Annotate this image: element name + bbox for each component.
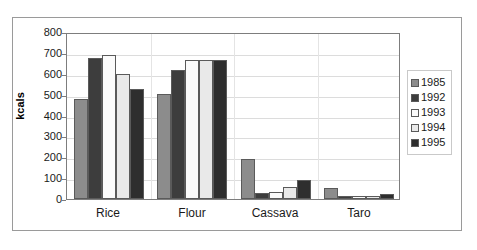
legend-swatch-icon: [411, 139, 419, 147]
bar-flour-1995: [213, 60, 227, 199]
legend-label: 1995: [421, 137, 445, 148]
legend-label: 1985: [421, 77, 445, 88]
plot-area: [66, 33, 400, 200]
legend-label: 1993: [421, 107, 445, 118]
legend-item-1993: 1993: [411, 105, 448, 120]
y-axis-tick-mark: [62, 75, 66, 76]
y-axis-tick-mark: [62, 158, 66, 159]
legend-item-1994: 1994: [411, 120, 448, 135]
x-axis-label-rice: Rice: [66, 206, 150, 220]
bar-taro-1994: [366, 196, 380, 199]
legend-item-1992: 1992: [411, 90, 448, 105]
bar-cassava-1985: [241, 159, 255, 199]
y-axis-tick-mark: [62, 117, 66, 118]
y-axis-tick-label: 800: [18, 27, 62, 38]
bar-flour-1993: [185, 60, 199, 199]
legend-swatch-icon: [411, 124, 419, 132]
legend-item-1995: 1995: [411, 135, 448, 150]
y-axis-tick-mark: [62, 54, 66, 55]
category-separator: [151, 34, 152, 199]
bar-taro-1985: [324, 188, 338, 199]
bar-cassava-1994: [283, 187, 297, 199]
gridline: [67, 55, 399, 56]
bar-rice-1995: [130, 89, 144, 199]
y-axis-tick-label: 0: [18, 194, 62, 205]
legend-swatch-icon: [411, 109, 419, 117]
y-axis-tick-mark: [62, 179, 66, 180]
y-axis-tick-mark: [62, 200, 66, 201]
bar-rice-1985: [74, 99, 88, 199]
y-axis-tick-label: 100: [18, 173, 62, 184]
y-axis-tick-label: 700: [18, 48, 62, 59]
bar-taro-1992: [338, 196, 352, 199]
bar-taro-1995: [380, 194, 394, 199]
chart-legend: 19851992199319941995: [407, 70, 452, 155]
bar-cassava-1995: [297, 180, 311, 199]
y-axis-tick-label: 200: [18, 152, 62, 163]
bar-flour-1992: [171, 70, 185, 199]
category-separator: [234, 34, 235, 199]
chart-figure: 0100200300400500600700800 kcals RiceFlou…: [0, 0, 477, 250]
category-separator: [318, 34, 319, 199]
y-axis-tick-mark: [62, 137, 66, 138]
bar-cassava-1992: [255, 193, 269, 199]
x-axis-label-cassava: Cassava: [233, 206, 317, 220]
legend-label: 1994: [421, 122, 445, 133]
bar-flour-1994: [199, 60, 213, 199]
y-axis-title: kcals: [14, 76, 26, 136]
bar-taro-1993: [352, 196, 366, 199]
y-axis-tick-mark: [62, 96, 66, 97]
bar-cassava-1993: [269, 192, 283, 199]
legend-swatch-icon: [411, 79, 419, 87]
x-axis-label-taro: Taro: [317, 206, 401, 220]
legend-swatch-icon: [411, 94, 419, 102]
x-axis-label-flour: Flour: [150, 206, 234, 220]
bar-rice-1994: [116, 74, 130, 199]
bar-rice-1993: [102, 55, 116, 199]
bar-rice-1992: [88, 58, 102, 199]
legend-item-1985: 1985: [411, 75, 448, 90]
legend-label: 1992: [421, 92, 445, 103]
bar-flour-1985: [157, 94, 171, 199]
y-axis-tick-mark: [62, 33, 66, 34]
